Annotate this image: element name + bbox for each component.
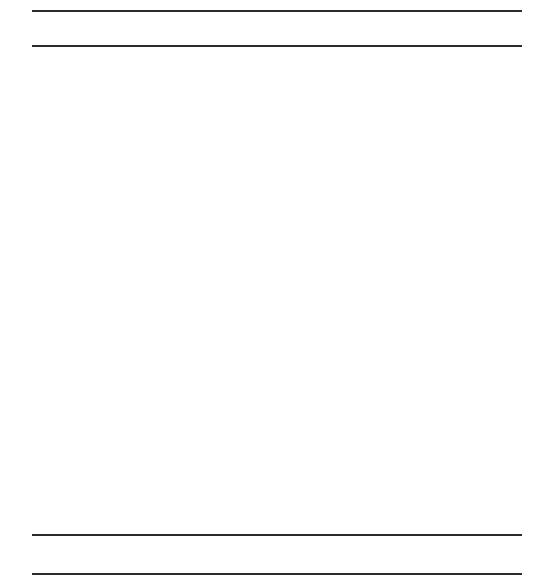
chart-page bbox=[0, 0, 554, 582]
bar-plot-area bbox=[0, 0, 554, 582]
